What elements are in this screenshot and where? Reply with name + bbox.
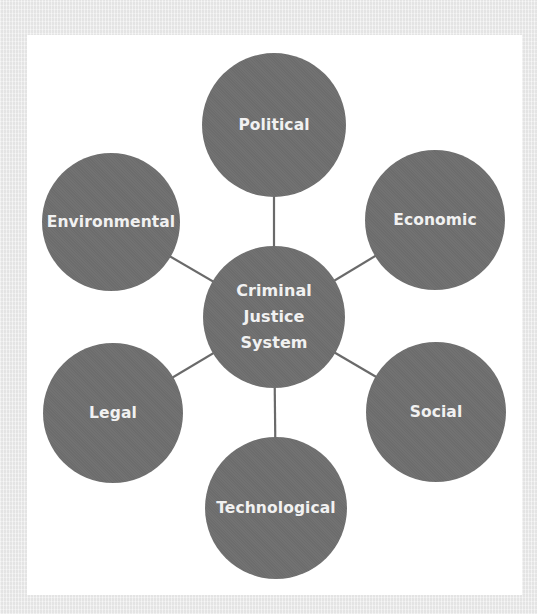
node-legal: Legal bbox=[43, 343, 183, 483]
center-node-criminal-justice-system: Criminal Justice System bbox=[203, 246, 345, 388]
node-label-environmental: Environmental bbox=[47, 213, 176, 231]
node-political: Political bbox=[202, 53, 346, 197]
node-label-economic: Economic bbox=[393, 211, 477, 229]
node-social: Social bbox=[366, 342, 506, 482]
center-node-label: Criminal Justice System bbox=[236, 278, 312, 356]
node-label-social: Social bbox=[410, 403, 463, 421]
node-environmental: Environmental bbox=[42, 153, 180, 291]
node-technological: Technological bbox=[205, 437, 347, 579]
node-label-political: Political bbox=[238, 116, 309, 134]
node-label-legal: Legal bbox=[89, 404, 137, 422]
node-label-technological: Technological bbox=[216, 499, 336, 517]
node-economic: Economic bbox=[365, 150, 505, 290]
